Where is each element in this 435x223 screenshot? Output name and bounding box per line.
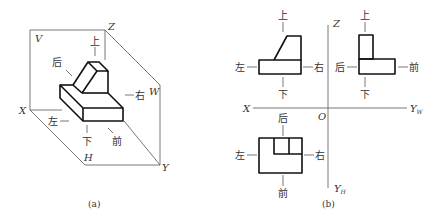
side-view-back: 后 [335,62,345,73]
top-view: 后 前 左 右 [235,113,325,199]
orthographic-projection-figure: V Z W X H Y 上 后 右 左 下 前 (a) Z X O YW YH … [0,0,435,223]
front-view: 上 下 左 右 [235,10,324,100]
plane-label-h: H [83,152,93,163]
top-view-left: 左 [235,149,245,161]
leader-front [108,128,113,133]
axis-label-y: Y [162,162,170,173]
front-view-right: 右 [314,61,324,73]
plane-label-v: V [35,33,44,44]
top-view-front: 前 [278,187,288,199]
side-view-up: 上 [360,10,370,21]
figure-a-caption: (a) [88,199,100,209]
front-view-left: 左 [235,61,245,73]
front-view-up: 上 [278,10,288,21]
axis-label-z: Z [332,18,341,29]
direction-label-up: 上 [90,36,100,47]
side-view-front: 前 [409,61,419,73]
top-view-right: 右 [315,149,325,161]
leader-back [66,70,72,76]
axis-label-yh: YH [334,183,347,195]
axis-label-z: Z [107,21,116,32]
direction-label-down: 下 [82,136,92,147]
axis-label-x: X [242,103,251,114]
direction-label-right: 右 [135,89,145,101]
direction-label-front: 前 [112,135,122,147]
top-view-back: 后 [278,113,288,124]
object-base-block [60,85,123,121]
front-view-down: 下 [278,89,288,100]
direction-label-left: 左 [48,115,58,127]
plane-label-w: W [149,86,160,97]
side-view-down: 下 [360,89,370,100]
figure-b-caption: (b) [322,199,335,209]
object-upper-block [73,62,108,93]
axis-label-x: X [18,105,27,116]
axis-label-yw: YW [410,103,424,115]
figure-b-three-views: Z X O YW YH 上 下 左 右 上 下 后 [235,10,424,209]
direction-label-back: 后 [52,57,62,68]
figure-a-isometric: V Z W X H Y 上 后 右 左 下 前 (a) [18,21,170,209]
side-view: 上 下 后 前 [335,10,419,100]
origin-label: O [318,111,326,122]
